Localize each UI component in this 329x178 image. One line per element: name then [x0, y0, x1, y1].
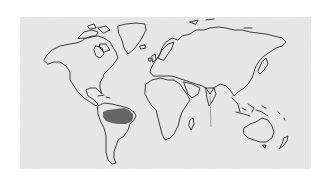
world-map	[0, 0, 329, 178]
map-background-texture	[20, 17, 311, 169]
